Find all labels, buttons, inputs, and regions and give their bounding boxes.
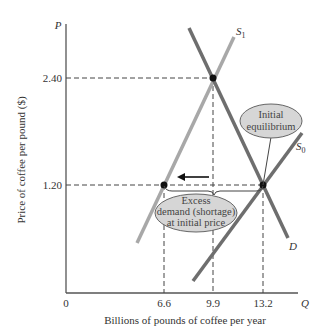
initial-callout-line2: equilibrium xyxy=(247,121,296,132)
shortage-point xyxy=(161,182,168,189)
origin-label: 0 xyxy=(63,297,69,309)
initial-callout-line1: Initial xyxy=(258,109,283,120)
x-tick-13-2: 13.2 xyxy=(253,297,272,309)
y-tick-1-20: 1.20 xyxy=(43,179,63,191)
y-axis-title: Price of coffee per pound ($) xyxy=(15,96,28,223)
left-arrow-icon xyxy=(177,173,209,181)
s1-label: S1 xyxy=(236,25,246,40)
shortage-callout-line1: Excess xyxy=(181,195,210,206)
x-axis-symbol: Q xyxy=(301,297,309,309)
y-axis-symbol: P xyxy=(54,19,62,31)
s0-label: S0 xyxy=(296,140,306,155)
x-tick-9-9: 9.9 xyxy=(206,297,220,309)
shortage-callout-line3: at initial price xyxy=(167,217,226,228)
y-tick-2-40: 2.40 xyxy=(43,72,63,84)
d-label: D xyxy=(288,240,297,252)
new-equilibrium-point xyxy=(210,75,217,82)
x-axis-title: Billions of pounds of coffee per year xyxy=(104,314,266,326)
x-tick-6-6: 6.6 xyxy=(157,297,171,309)
supply-demand-chart: P Q 0 2.40 1.20 6.6 9.9 13.2 Billions of… xyxy=(0,0,325,334)
